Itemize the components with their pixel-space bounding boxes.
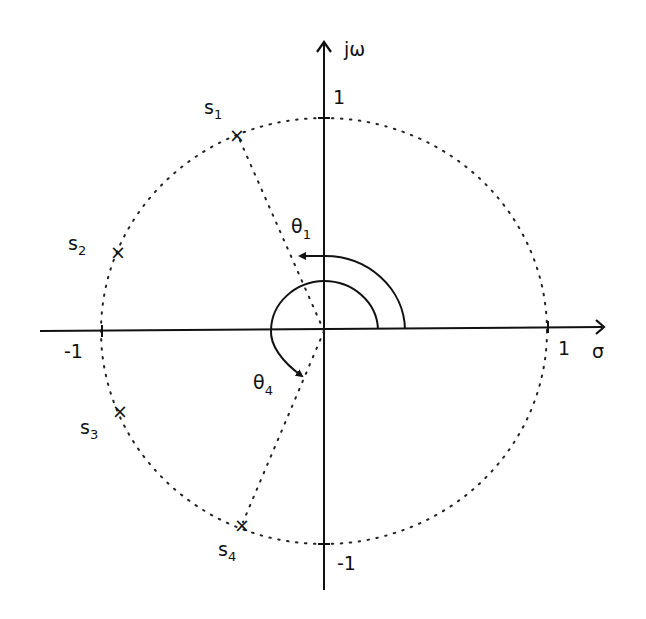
pole-marker-s4: ×	[234, 514, 250, 536]
imag-axis-label: jω	[343, 38, 365, 60]
angle-arc-theta1	[300, 256, 405, 329]
pole-marker-s1: ×	[229, 124, 245, 146]
tick-label-imag-pos: 1	[333, 86, 345, 108]
s-plane-diagram: × s1 × s2 × s3 × s4 θ1 θ4 jω σ 1 -1 1 -1	[0, 0, 646, 619]
pole-label-s2: s2	[68, 232, 86, 258]
pole-marker-s3: ×	[112, 400, 128, 422]
tick-label-real-neg: -1	[64, 340, 83, 362]
angle-label-theta1: θ1	[291, 215, 311, 242]
pole-s1: × s1	[204, 96, 245, 146]
pole-s3: × s3	[80, 400, 128, 442]
pole-marker-s2: ×	[110, 241, 126, 263]
pole-s2: × s2	[68, 232, 126, 263]
pole-label-s1: s1	[204, 96, 222, 122]
angle-label-theta4: θ4	[253, 371, 273, 398]
pole-label-s4: s4	[218, 538, 236, 564]
real-axis	[40, 327, 602, 331]
real-axis-label: σ	[592, 340, 604, 362]
pole-label-s3: s3	[80, 416, 98, 442]
pole-s4: × s4	[218, 514, 250, 564]
tick-label-real-pos: 1	[558, 337, 570, 359]
tick-label-imag-neg: -1	[337, 552, 356, 574]
